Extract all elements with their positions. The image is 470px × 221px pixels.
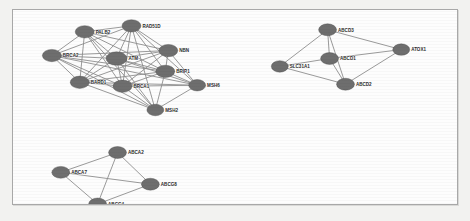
- edge: [346, 50, 402, 85]
- graph-node-label-abcg8: ABCG8: [161, 182, 177, 187]
- network-graph[interactable]: PALB2RAD51DBRCA2ATMNBNBRIP1BARD1BRCA1MSH…: [13, 10, 457, 204]
- graph-node-label-nbn: NBN: [179, 48, 189, 53]
- graph-node-label-brip1: BRIP1: [176, 69, 190, 74]
- graph-node-label-brca2: BRCA2: [63, 53, 79, 58]
- graph-node-label-slc31a1: SLC31A1: [290, 64, 310, 69]
- graph-node-abcd3[interactable]: [319, 24, 337, 36]
- graph-node-label-abcg4: ABCG4: [108, 202, 124, 204]
- graph-node-brca2[interactable]: [42, 49, 61, 61]
- graph-node-label-abcd1: ABCD1: [340, 56, 356, 61]
- graph-node-abca7[interactable]: [52, 166, 70, 178]
- network-figure-frame: PALB2RAD51DBRCA2ATMNBNBRIP1BARD1BRCA1MSH…: [12, 9, 458, 205]
- graph-node-label-abcd3: ABCD3: [338, 28, 354, 33]
- graph-node-label-abcd2: ABCD2: [356, 82, 372, 87]
- edge: [328, 30, 402, 50]
- labels-layer: PALB2RAD51DBRCA2ATMNBNBRIP1BARD1BRCA1MSH…: [63, 24, 427, 204]
- edges-layer: [52, 26, 401, 204]
- graph-node-label-msh6: MSH6: [207, 83, 220, 88]
- graph-node-brca1[interactable]: [113, 80, 132, 92]
- graph-node-atox1[interactable]: [393, 44, 410, 55]
- graph-node-slc31a1[interactable]: [271, 61, 288, 72]
- graph-node-label-rad51d: RAD51D: [142, 24, 161, 29]
- graph-node-rad51d[interactable]: [122, 20, 141, 32]
- graph-node-label-palb2: PALB2: [96, 30, 111, 35]
- graph-node-atm[interactable]: [106, 52, 127, 65]
- edge: [280, 30, 328, 67]
- graph-node-label-msh2: MSH2: [165, 108, 178, 113]
- graph-node-msh6[interactable]: [189, 79, 206, 90]
- graph-node-label-brca1: BRCA1: [133, 84, 149, 89]
- graph-node-label-atm: ATM: [128, 56, 138, 61]
- graph-node-msh2[interactable]: [147, 104, 164, 115]
- graph-node-nbn[interactable]: [159, 44, 178, 56]
- graph-node-abcd2[interactable]: [337, 78, 355, 90]
- graph-node-label-abca7: ABCA7: [71, 170, 87, 175]
- graph-node-abca2[interactable]: [109, 147, 127, 159]
- graph-node-label-atox1: ATOX1: [411, 47, 426, 52]
- graph-node-palb2[interactable]: [75, 26, 94, 38]
- nodes-layer: [42, 20, 409, 204]
- screenshot-canvas: PALB2RAD51DBRCA2ATMNBNBRIP1BARD1BRCA1MSH…: [0, 0, 470, 221]
- graph-node-abcg8[interactable]: [141, 178, 159, 190]
- graph-node-abcd1[interactable]: [321, 53, 339, 65]
- graph-node-label-bard1: BARD1: [91, 80, 107, 85]
- graph-node-brip1[interactable]: [156, 65, 175, 77]
- graph-node-label-abca2: ABCA2: [128, 150, 144, 155]
- edge: [61, 153, 118, 173]
- graph-node-bard1[interactable]: [70, 76, 89, 88]
